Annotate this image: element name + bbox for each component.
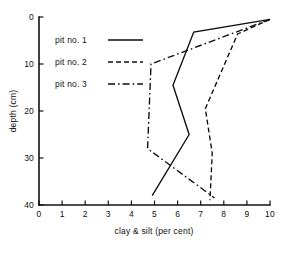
series-group bbox=[148, 19, 270, 200]
chart-legend: pit no. 1pit no. 2pit no. 3 bbox=[55, 35, 143, 89]
y-axis-ticks: 010203040 bbox=[24, 12, 43, 210]
y-tick-label: 30 bbox=[24, 153, 34, 163]
y-tick-label: 40 bbox=[24, 200, 34, 210]
chart-figure: 010203040 012345678910 pit no. 1pit no. … bbox=[0, 0, 292, 257]
x-tick-label: 3 bbox=[106, 209, 111, 219]
y-tick-label: 0 bbox=[29, 12, 34, 22]
axes-group bbox=[39, 17, 270, 205]
x-tick-label: 4 bbox=[129, 209, 134, 219]
x-tick-label: 7 bbox=[198, 209, 203, 219]
series-line-2 bbox=[205, 19, 270, 200]
x-tick-label: 5 bbox=[152, 209, 157, 219]
series-line-3 bbox=[148, 19, 270, 198]
x-tick-label: 1 bbox=[60, 209, 65, 219]
y-tick-label: 20 bbox=[24, 106, 34, 116]
y-axis-title: depth (cm) bbox=[8, 90, 18, 133]
x-tick-label: 10 bbox=[265, 209, 275, 219]
x-tick-label: 0 bbox=[37, 209, 42, 219]
legend-label-2: pit no. 2 bbox=[55, 57, 87, 67]
x-axis-title: clay & silt (per cent) bbox=[114, 226, 193, 236]
legend-label-3: pit no. 3 bbox=[55, 79, 87, 89]
x-axis-ticks: 012345678910 bbox=[37, 201, 275, 220]
legend-label-1: pit no. 1 bbox=[55, 35, 87, 45]
x-tick-label: 2 bbox=[83, 209, 88, 219]
x-tick-label: 6 bbox=[175, 209, 180, 219]
x-tick-label: 9 bbox=[244, 209, 249, 219]
chart-canvas: 010203040 012345678910 pit no. 1pit no. … bbox=[0, 0, 292, 257]
x-tick-label: 8 bbox=[221, 209, 226, 219]
y-tick-label: 10 bbox=[24, 59, 34, 69]
